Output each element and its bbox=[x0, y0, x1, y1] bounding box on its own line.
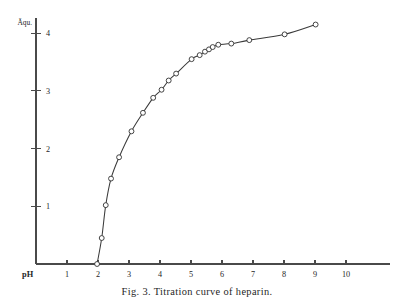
data-point bbox=[159, 87, 164, 92]
x-tick-label-2: 2 bbox=[96, 270, 100, 279]
data-point bbox=[141, 110, 146, 115]
data-point bbox=[103, 203, 108, 208]
data-point bbox=[117, 155, 122, 160]
data-point bbox=[282, 32, 287, 37]
figure-container: 12345678910 1234 pH Äqu. Fig. 3. Titrati… bbox=[0, 0, 394, 308]
data-point bbox=[109, 176, 114, 181]
data-point bbox=[313, 22, 318, 27]
titration-curve-line bbox=[97, 25, 316, 264]
y-tick-label-4: 4 bbox=[46, 29, 50, 38]
x-tick-label-6: 6 bbox=[220, 270, 224, 279]
figure-caption: Fig. 3. Titration curve of heparin. bbox=[0, 286, 394, 297]
x-axis-ticks bbox=[67, 260, 346, 264]
x-tick-label-1: 1 bbox=[65, 270, 69, 279]
data-point bbox=[95, 262, 100, 267]
y-tick-label-1: 1 bbox=[46, 202, 50, 211]
data-point bbox=[247, 38, 252, 43]
data-point bbox=[174, 71, 179, 76]
data-point bbox=[210, 45, 215, 50]
y-axis-title: Äqu. bbox=[17, 18, 32, 27]
titration-curve-chart: 12345678910 1234 pH Äqu. bbox=[0, 0, 394, 308]
y-axis-tick-labels: 1234 bbox=[46, 29, 50, 211]
x-tick-label-7: 7 bbox=[251, 270, 255, 279]
data-point bbox=[189, 57, 194, 62]
x-tick-label-9: 9 bbox=[313, 270, 317, 279]
data-point bbox=[166, 78, 171, 83]
x-tick-label-8: 8 bbox=[282, 270, 286, 279]
data-point bbox=[151, 95, 156, 100]
data-point bbox=[129, 129, 134, 134]
x-axis-title: pH bbox=[22, 270, 34, 279]
x-tick-label-3: 3 bbox=[127, 270, 131, 279]
x-axis-tick-labels: 12345678910 bbox=[65, 270, 350, 279]
chart-axes bbox=[36, 18, 390, 264]
data-point-markers bbox=[95, 22, 318, 266]
data-point bbox=[197, 53, 202, 58]
x-tick-label-4: 4 bbox=[158, 270, 162, 279]
y-tick-label-2: 2 bbox=[46, 145, 50, 154]
x-tick-label-10: 10 bbox=[342, 270, 350, 279]
data-point bbox=[216, 42, 221, 47]
data-point bbox=[229, 41, 234, 46]
y-tick-label-3: 3 bbox=[46, 87, 50, 96]
x-tick-label-5: 5 bbox=[189, 270, 193, 279]
data-point bbox=[99, 236, 104, 241]
